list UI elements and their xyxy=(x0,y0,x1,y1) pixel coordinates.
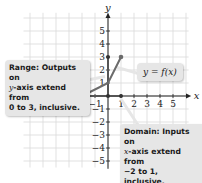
domain-line-2-rest: -axis extend from xyxy=(124,147,181,166)
y-axis-arrow-icon xyxy=(106,13,111,18)
y-tick-label: 3 xyxy=(99,52,105,62)
y-tick-label: −4 xyxy=(92,143,106,153)
range-callout: Range: Outputs on y-axis extend from 0 t… xyxy=(5,60,90,116)
y-tick-label: 5 xyxy=(99,26,105,36)
y-tick-label: −1 xyxy=(92,104,105,114)
x-tick-label: 4 xyxy=(157,99,163,109)
range-line-2-rest: -axis extend from xyxy=(9,83,66,102)
x-tick-label: 3 xyxy=(144,99,150,109)
function-label: y = f(x) xyxy=(137,63,183,81)
y-tick-label: −3 xyxy=(92,130,106,140)
x-axis-arrow-icon xyxy=(186,94,191,99)
x-axis-label: x xyxy=(194,90,200,101)
x-tick-label: 2 xyxy=(131,99,137,109)
domain-line-1: Domain: Inputs on xyxy=(124,127,201,147)
y-tick-label: −2 xyxy=(92,117,105,127)
domain-callout: Domain: Inputs on x-axis extend from −2 … xyxy=(120,124,202,183)
x-tick-label: 5 xyxy=(170,99,176,109)
range-line-1: Range: Outputs on xyxy=(9,63,86,83)
range-line-3: 0 to 3, inclusive. xyxy=(9,103,86,113)
domain-line-3: −2 to 1, inclusive. xyxy=(124,167,201,183)
domain-line-2: x-axis extend from xyxy=(124,147,201,167)
y-tick-label: 2 xyxy=(99,65,105,75)
range-line-2: y-axis extend from xyxy=(9,83,86,103)
y-tick-label: −5 xyxy=(92,156,106,166)
domain-endpoint xyxy=(119,94,123,98)
y-tick-label: 4 xyxy=(99,39,105,49)
range-endpoint xyxy=(106,55,110,59)
curve-endpoint xyxy=(119,55,124,60)
y-axis-label: y xyxy=(104,2,111,13)
range-endpoint xyxy=(106,94,110,98)
